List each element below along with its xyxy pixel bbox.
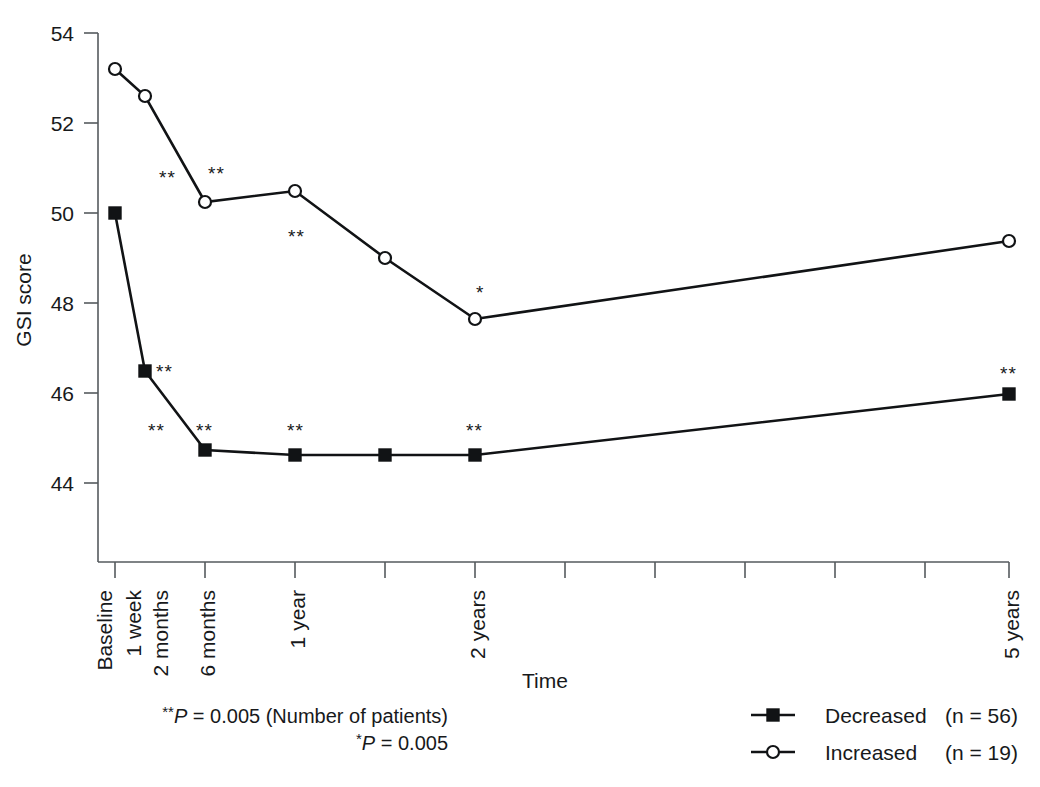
point-decreased-6-months [289, 449, 301, 461]
legend-count-increased: (n = 19) [945, 741, 1018, 764]
y-tick-label-52: 52 [51, 112, 74, 135]
x-tick-label-6-months: 6 months [196, 590, 219, 676]
open-circle-icon [767, 746, 779, 758]
x-tick-label-baseline: Baseline [93, 590, 116, 671]
x-tick-label-1-year: 1 year [286, 590, 309, 648]
point-increased-1-week [139, 90, 151, 102]
y-tick-label-50: 50 [51, 202, 74, 225]
x-tick-label-1-week: 1 week [122, 590, 145, 657]
footnote-line-1: **P = 0.005 (Number of patients) [162, 703, 448, 727]
legend-item-decreased[interactable]: Decreased (n = 56) [751, 704, 1018, 727]
sig-decreased-5-years: ** [1000, 363, 1017, 384]
series-increased [109, 63, 1015, 325]
y-tick-label-54: 54 [51, 22, 75, 45]
point-increased-1-year [379, 252, 391, 264]
footnotes: **P = 0.005 (Number of patients) *P = 0.… [162, 703, 448, 754]
sig-increased-1-year: ** [288, 226, 305, 247]
legend-label-decreased: Decreased [825, 704, 927, 727]
point-increased-2-years [469, 313, 481, 325]
x-tick-label-2-years: 2 years [466, 590, 489, 659]
legend-label-increased: Increased [825, 741, 917, 764]
sig-decreased-2-years: ** [466, 420, 483, 441]
x-tick-label-5-years: 5 years [1000, 590, 1023, 659]
chart-canvas: 54 52 50 48 46 44 GSI score Baseline 1 [0, 0, 1040, 787]
point-decreased-1-week [139, 365, 151, 377]
point-increased-6-months [289, 185, 301, 197]
significance-decreased: ** ** ** ** ** ** [148, 361, 1017, 441]
y-axis-title: GSI score [12, 253, 35, 346]
x-tick-group [115, 562, 1009, 578]
sig-decreased-1-week: ** [156, 361, 173, 382]
legend-count-decreased: (n = 56) [945, 704, 1018, 727]
y-tick-labels: 54 52 50 48 46 44 [51, 22, 75, 495]
sig-decreased-2-months: ** [148, 420, 165, 441]
y-tick-group [84, 33, 98, 483]
point-decreased-2-years [469, 449, 481, 461]
point-decreased-5-years [1003, 388, 1015, 400]
footnote-line-2: *P = 0.005 [356, 730, 448, 754]
sig-increased-2-years: * [476, 282, 484, 303]
footnote-2-p: P [362, 732, 376, 754]
footnote-1-marker: ** [162, 703, 174, 720]
point-increased-5-years [1003, 235, 1015, 247]
point-increased-2-months [199, 196, 211, 208]
legend-item-increased[interactable]: Increased (n = 19) [751, 741, 1018, 764]
sig-increased-2-months: ** [159, 167, 176, 188]
point-increased-baseline [109, 63, 121, 75]
y-tick-label-48: 48 [51, 292, 74, 315]
x-tick-label-2-months: 2 months [149, 590, 172, 676]
y-tick-label-46: 46 [51, 382, 74, 405]
gsi-score-line-chart: 54 52 50 48 46 44 GSI score Baseline 1 [0, 0, 1040, 787]
x-tick-labels: Baseline 1 week 2 months 6 months 1 year… [93, 590, 1023, 677]
sig-decreased-6-months: ** [196, 420, 213, 441]
sig-decreased-1-year: ** [287, 420, 304, 441]
y-tick-label-44: 44 [51, 472, 75, 495]
significance-increased: ** ** ** * [159, 163, 484, 303]
x-axis: Baseline 1 week 2 months 6 months 1 year… [93, 562, 1023, 692]
point-decreased-baseline [109, 207, 121, 219]
footnote-1-p: P [174, 705, 188, 727]
point-decreased-2-months [199, 444, 211, 456]
chart-legend: Decreased (n = 56) Increased (n = 19) [751, 704, 1018, 764]
footnote-2-rest: = 0.005 [375, 732, 448, 754]
point-decreased-1-year [379, 449, 391, 461]
filled-square-icon [767, 709, 779, 721]
y-axis: 54 52 50 48 46 44 GSI score [12, 22, 98, 562]
series-decreased [109, 207, 1015, 461]
series-decreased-line [115, 213, 1009, 455]
series-increased-line [115, 69, 1009, 319]
x-axis-title: Time [522, 669, 568, 692]
sig-increased-6-months: ** [208, 163, 225, 184]
footnote-1-rest: = 0.005 (Number of patients) [187, 705, 448, 727]
